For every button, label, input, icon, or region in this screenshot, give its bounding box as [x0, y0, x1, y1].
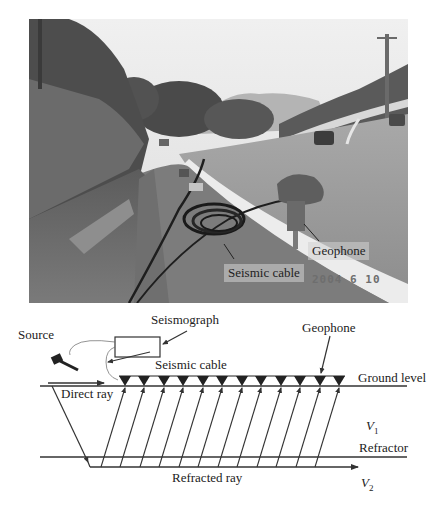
label-seismograph: Seismograph: [151, 312, 219, 328]
label-velocity-v2: V2: [361, 475, 373, 493]
v2-symbol: V: [361, 475, 369, 490]
label-seismic-cable: Seismic cable: [155, 357, 227, 373]
label-refracted-ray: Refracted ray: [172, 470, 242, 486]
label-source: Source: [18, 327, 54, 343]
label-refractor: Refractor: [359, 440, 408, 456]
v2-subscript: 2: [369, 483, 374, 493]
label-geophone: Geophone: [302, 320, 355, 336]
photo-label-seismic-cable: Seismic cable: [224, 264, 304, 282]
photo-date-stamp: 2004 6 10: [312, 273, 381, 286]
source-hammer-icon: [51, 353, 78, 370]
geophone-array: [119, 376, 345, 386]
field-photo-image: [29, 19, 408, 303]
v1-subscript: 1: [374, 426, 379, 436]
seismic-refraction-diagram: Source Seismograph Geophone Seismic cabl…: [0, 310, 443, 506]
upgoing-rays: [101, 388, 339, 467]
v1-symbol: V: [366, 418, 374, 433]
photo-label-geophone: Geophone: [308, 242, 369, 260]
label-direct-ray: Direct ray: [61, 386, 113, 402]
field-photo: Geophone Seismic cable 2004 6 10: [29, 19, 408, 303]
seismograph-box: [115, 337, 160, 357]
label-ground-level: Ground level: [358, 370, 426, 386]
label-velocity-v1: V1: [366, 418, 378, 436]
